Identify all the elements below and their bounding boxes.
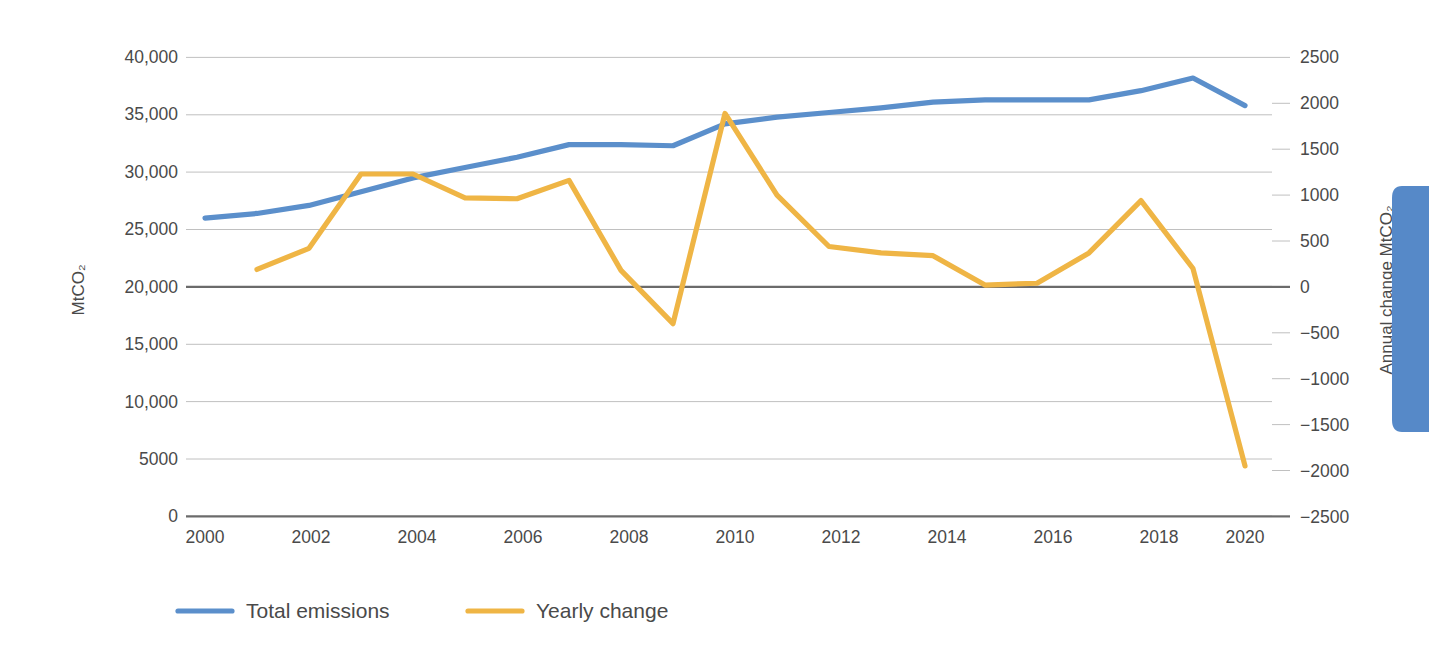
legend-label-total-emissions: Total emissions xyxy=(246,599,390,622)
left-tick-label: 40,000 xyxy=(124,47,178,67)
right-tick-label: 1500 xyxy=(1300,139,1339,159)
x-tick-label: 2004 xyxy=(398,527,437,547)
gridlines xyxy=(186,57,1272,516)
legend: Total emissions Yearly change xyxy=(178,599,668,622)
right-tick-label: −2000 xyxy=(1300,461,1349,481)
right-tick-label: −2500 xyxy=(1300,507,1349,527)
series-line-total-emissions xyxy=(205,78,1245,218)
right-axis-ticks: 2500 2000 1500 1000 500 0 −500 −1000 −15… xyxy=(1272,47,1349,527)
legend-label-yearly-change: Yearly change xyxy=(536,599,668,622)
emissions-chart: 40,000 35,000 30,000 25,000 20,000 15,00… xyxy=(0,0,1429,652)
left-axis-ticks: 40,000 35,000 30,000 25,000 20,000 15,00… xyxy=(124,47,178,526)
right-tick-label: −500 xyxy=(1300,323,1340,343)
x-tick-label: 2020 xyxy=(1226,527,1265,547)
x-tick-label: 2010 xyxy=(716,527,755,547)
chart-svg: 40,000 35,000 30,000 25,000 20,000 15,00… xyxy=(0,0,1429,652)
left-tick-label: 15,000 xyxy=(124,334,178,354)
left-tick-label: 0 xyxy=(168,506,178,526)
left-tick-label: 25,000 xyxy=(124,219,178,239)
x-tick-label: 2002 xyxy=(292,527,331,547)
x-tick-label: 2014 xyxy=(928,527,967,547)
x-tick-label: 2000 xyxy=(186,527,225,547)
right-tick-label: 2000 xyxy=(1300,93,1339,113)
left-tick-label: 10,000 xyxy=(124,392,178,412)
left-tick-label: 20,000 xyxy=(124,277,178,297)
right-tick-label: 500 xyxy=(1300,231,1329,251)
x-tick-label: 2012 xyxy=(822,527,861,547)
x-tick-label: 2016 xyxy=(1034,527,1073,547)
right-tick-label: 0 xyxy=(1300,277,1310,297)
x-tick-label: 2018 xyxy=(1140,527,1179,547)
right-tick-label: 2500 xyxy=(1300,47,1339,67)
right-tick-label: −1500 xyxy=(1300,415,1349,435)
right-tick-label: −1000 xyxy=(1300,369,1349,389)
x-axis-ticks: 2000 2002 2004 2006 2008 2010 2012 2014 … xyxy=(186,527,1265,547)
series-line-yearly-change xyxy=(257,113,1245,466)
left-tick-label: 30,000 xyxy=(124,162,178,182)
left-tick-label: 5000 xyxy=(139,449,178,469)
x-tick-label: 2006 xyxy=(504,527,543,547)
x-tick-label: 2008 xyxy=(610,527,649,547)
left-axis-title: MtCO₂ xyxy=(69,265,88,316)
side-panel-tab[interactable] xyxy=(1392,186,1429,432)
right-tick-label: 1000 xyxy=(1300,185,1339,205)
left-tick-label: 35,000 xyxy=(124,104,178,124)
